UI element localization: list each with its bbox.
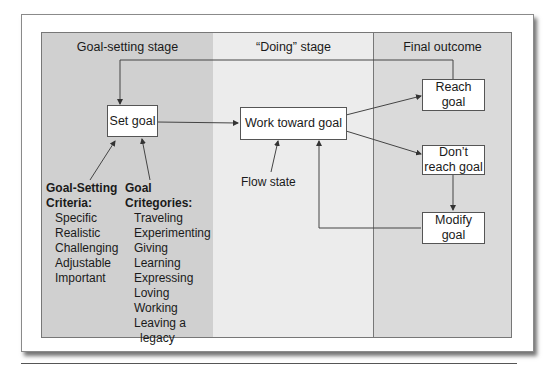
category-item: legacy bbox=[134, 331, 211, 346]
dont-reach-goal-node: Don’t reach goal bbox=[422, 145, 485, 175]
reach-goal-label: Reach goal bbox=[423, 80, 484, 110]
category-item: Learning bbox=[134, 256, 211, 271]
set-goal-node: Set goal bbox=[107, 105, 158, 137]
category-item: Expressing bbox=[134, 271, 211, 286]
work-toward-goal-label: Work toward goal bbox=[245, 116, 342, 131]
criteria-item: Realistic bbox=[55, 226, 118, 241]
criteria-block: Goal-Setting Criteria: Specific Realisti… bbox=[46, 181, 118, 286]
criteria-item: Adjustable bbox=[55, 256, 118, 271]
category-item: Traveling bbox=[134, 211, 211, 226]
criteria-item: Challenging bbox=[55, 241, 118, 256]
modify-goal-node: Modify goal bbox=[422, 212, 485, 244]
category-item: Experimenting bbox=[134, 226, 211, 241]
category-item: Loving bbox=[134, 286, 211, 301]
category-item: Leaving a bbox=[134, 316, 211, 331]
dont-reach-goal-label-1: Don’t bbox=[439, 145, 468, 160]
categories-title-2: Critegories: bbox=[125, 196, 211, 211]
modify-goal-label: Modify goal bbox=[423, 213, 484, 243]
category-item: Giving bbox=[134, 241, 211, 256]
criteria-item: Important bbox=[55, 271, 118, 286]
set-goal-label: Set goal bbox=[110, 114, 156, 129]
category-item: Working bbox=[134, 301, 211, 316]
flow-state-label: Flow state bbox=[241, 175, 296, 190]
criteria-title-2: Criteria: bbox=[46, 196, 118, 211]
criteria-title-1: Goal-Setting bbox=[46, 181, 118, 196]
reach-goal-node: Reach goal bbox=[422, 79, 485, 111]
dont-reach-goal-label-2: reach goal bbox=[424, 160, 482, 175]
work-toward-goal-node: Work toward goal bbox=[240, 107, 347, 140]
criteria-item: Specific bbox=[55, 211, 118, 226]
categories-title-1: Goal bbox=[125, 181, 211, 196]
categories-block: Goal Critegories: Traveling Experimentin… bbox=[125, 181, 211, 346]
